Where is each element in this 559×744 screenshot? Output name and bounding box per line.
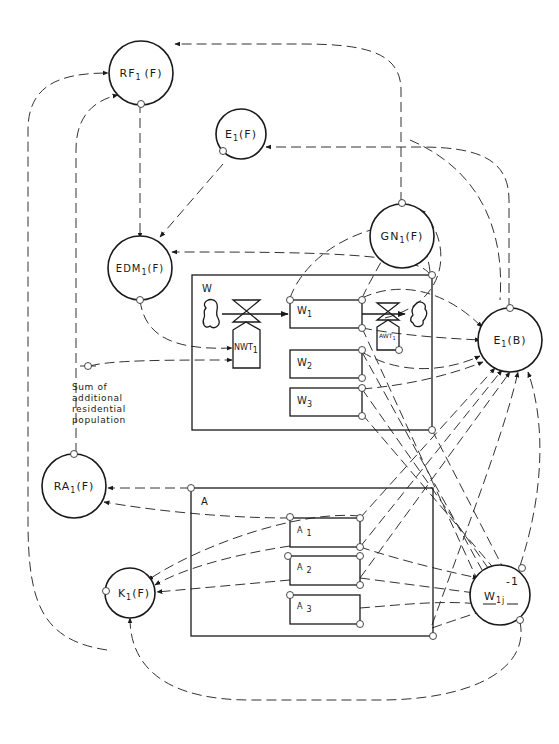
flow-diagram: W NWT1 W1 W2 W3 AWT1 xyxy=(0,0,559,744)
group-a: A A1 A2 A3 xyxy=(188,485,437,640)
svg-text:AWT1: AWT1 xyxy=(379,332,396,341)
svg-text:E1(F): E1(F) xyxy=(225,128,257,143)
source-cloud-icon xyxy=(203,300,219,328)
svg-text:Sum of: Sum of xyxy=(72,382,108,392)
svg-text:population: population xyxy=(72,415,126,425)
connectors xyxy=(28,44,540,700)
node-e1f: E1(F) xyxy=(216,109,266,159)
svg-text:A3: A3 xyxy=(297,602,312,614)
population-note: Sum of additional residential population xyxy=(72,363,126,426)
nwt-valve: NWT1 xyxy=(233,300,260,368)
svg-text:K1(F): K1(F) xyxy=(118,587,150,602)
node-rf1: RF1(F) xyxy=(109,41,173,108)
awt-valve: AWT1 xyxy=(377,303,399,350)
group-w: W NWT1 W1 W2 W3 AWT1 xyxy=(192,272,436,434)
node-gn1: GN1(F) xyxy=(370,200,434,269)
node-edm1: EDM1(F) xyxy=(108,236,172,304)
node-e1b: E1(B) xyxy=(478,305,542,373)
svg-text:E1(B): E1(B) xyxy=(493,334,526,349)
svg-text:A: A xyxy=(201,496,208,507)
svg-text:additional: additional xyxy=(72,393,123,403)
svg-text:A2: A2 xyxy=(297,563,312,575)
svg-text:W3: W3 xyxy=(297,395,312,409)
node-k1: K1(F) xyxy=(103,568,156,618)
group-w-label: W xyxy=(202,283,212,294)
node-ra1: RA1(F) xyxy=(42,451,106,519)
svg-text:-1: -1 xyxy=(506,575,519,588)
svg-text:A1: A1 xyxy=(297,526,312,538)
svg-text:W1: W1 xyxy=(297,305,312,319)
svg-text:residential: residential xyxy=(72,404,126,414)
svg-text:W2: W2 xyxy=(297,357,312,371)
svg-text:NWT1: NWT1 xyxy=(234,343,258,355)
node-w1j: W1j -1 xyxy=(470,565,530,626)
